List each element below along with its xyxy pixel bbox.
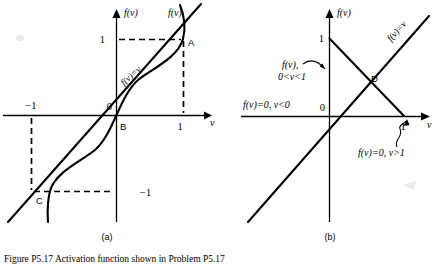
panel-a-xtick-pos-one: 1 [177,121,182,132]
scan-artifact-b [403,181,416,190]
panel-a: f(v) v f(v) f(v)=v 1 −1 1 −1 0 A B C (a) [3,4,215,242]
panel-a-y-axis-arrow [113,9,121,18]
panel-a-xtick-neg-one: −1 [25,100,36,111]
panel-b-point-D-label: D [371,73,378,84]
panel-a-identity-label: f(v)=v [119,64,145,89]
panel-b-fv-ramp [330,39,405,117]
panel-a-point-C-label: C [36,195,43,206]
panel-b-annotation-left: f(v)=0, v<0 [243,99,290,111]
panel-b-y-axis-label: f(v) [337,7,352,19]
panel-b: f(v) v f(v)=v 1 1 0 D f(v), 0<v<1 f(v)=0… [241,7,432,242]
panel-a-curve-label: f(v) [168,7,183,19]
panel-b-annotation-middle-line1: f(v), [282,59,298,71]
panel-b-ytick-pos-one: 1 [319,33,324,44]
panel-a-origin-label: 0 [107,101,112,112]
panel-b-y-axis-arrow [326,9,334,18]
panel-b-caption: (b) [325,232,336,242]
panel-a-point-A-label: A [188,37,195,48]
panel-b-x-axis-label: v [427,119,432,130]
panel-b-identity-label: f(v)=v [385,18,410,44]
scan-artifact [16,35,24,41]
figure-svg: f(v) v f(v) f(v)=v 1 −1 1 −1 0 A B C (a) [0,0,445,265]
panel-a-point-B-label: B [120,121,126,132]
panel-a-ytick-neg-one: −1 [140,187,151,198]
panel-a-caption: (a) [102,232,113,242]
figure-caption: Figure P5.17 Activation function shown i… [4,254,225,264]
panel-b-annotation-right: f(v)=0, v>1 [358,147,405,159]
panel-a-y-axis-label: f(v) [124,7,139,19]
panel-a-x-axis-label: v [210,117,215,128]
figure-root: f(v) v f(v) f(v)=v 1 −1 1 −1 0 A B C (a) [0,0,445,265]
panel-b-annotation-middle-line2: 0<v<1 [278,71,306,82]
panel-b-origin-label: 0 [320,102,325,113]
panel-a-ytick-pos-one: 1 [100,34,105,45]
